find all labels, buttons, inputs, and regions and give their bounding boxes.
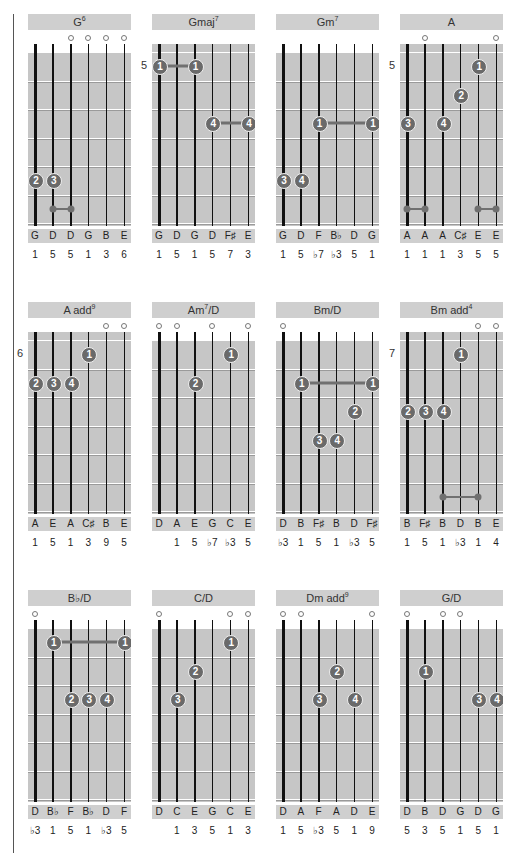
open-string-icon (103, 35, 109, 41)
note-name: F (316, 229, 322, 243)
finger-dot: 4 (64, 376, 80, 392)
interval-label: 5 (210, 824, 216, 838)
chord-name: Gmaj (188, 16, 214, 28)
fretboard: 11234 (28, 620, 131, 802)
guitar-string (372, 620, 373, 802)
note-names-bar: DCEGCE (152, 805, 255, 819)
interval-label: 1 (86, 248, 92, 262)
note-name: E (191, 805, 198, 819)
note-name: B (103, 229, 110, 243)
chord-superscript: 7 (204, 303, 208, 310)
interval-label: 1 (440, 536, 446, 550)
fret-shadow (152, 370, 255, 371)
interval-label: 1 (422, 248, 428, 262)
chord-title: Bm/D (276, 302, 379, 318)
interval-label: 1 (458, 824, 464, 838)
fret-shadow (400, 398, 503, 399)
interval-label: 1 (50, 824, 56, 838)
chord-name: B♭/D (68, 592, 91, 604)
interval-label: 5 (351, 248, 357, 262)
fret-shadow (28, 484, 131, 485)
interval-label: 6 (121, 248, 127, 262)
note-name: C♯ (82, 517, 94, 531)
guitar-string (282, 620, 285, 802)
finger-dot: 3 (170, 692, 186, 708)
guitar-string (460, 44, 462, 226)
fret-shadow (28, 686, 131, 687)
chord-title: Dm add9 (276, 590, 379, 606)
note-name: B (103, 517, 110, 531)
chord-diagram: Dm add9234DAFADE15♭3519 (276, 590, 379, 840)
open-string-markers (152, 321, 255, 331)
chord-title: A (400, 14, 503, 30)
interval-row: 15♭7♭351 (276, 248, 379, 262)
note-name: G (155, 229, 163, 243)
fret-shadow (276, 512, 379, 513)
finger-dot: 3 (46, 173, 62, 189)
finger-dot: 4 (205, 116, 221, 132)
note-names-bar: BF♯BDBE (400, 517, 503, 531)
fret-shadow (400, 772, 503, 773)
guitar-string (124, 44, 125, 226)
finger-dot: 1 (152, 59, 168, 75)
guitar-string (424, 620, 426, 802)
note-name: B♭ (47, 805, 59, 819)
guitar-string (336, 332, 338, 514)
fret-shadow (276, 686, 379, 687)
chord-superscript: 7 (334, 15, 338, 22)
fret-shadow (276, 800, 379, 801)
interval-label: 1 (174, 824, 180, 838)
fret-shadow (276, 370, 379, 371)
interval-row: 151♭314 (400, 536, 503, 550)
chord-diagram: Am7/D12DAEGCE15♭7♭35 (152, 302, 255, 552)
note-name: A (173, 517, 180, 531)
note-name: D (279, 517, 286, 531)
fretboard: 1134 (276, 44, 379, 226)
note-name: E (475, 229, 482, 243)
interval-label: 3 (458, 248, 464, 262)
fret-shadow (152, 398, 255, 399)
guitar-string (442, 332, 444, 514)
open-string-icon (32, 611, 38, 617)
finger-dot: 2 (400, 404, 416, 420)
finger-dot: 3 (471, 692, 487, 708)
fret-line (276, 628, 379, 629)
fret-shadow (28, 455, 131, 456)
note-names-bar: GDGDF♯E (152, 229, 255, 243)
small-note-dot-icon (404, 205, 411, 212)
finger-dot: 2 (453, 88, 469, 104)
open-string-icon (404, 611, 410, 617)
finger-dot: 2 (64, 692, 80, 708)
note-name: F♯ (225, 229, 236, 243)
interval-label: 5 (192, 536, 198, 550)
finger-dot: 1 (418, 664, 434, 680)
finger-dot: 2 (28, 173, 44, 189)
fret-line (400, 52, 503, 53)
interval-label: 1 (86, 824, 92, 838)
note-name: G (279, 229, 287, 243)
guitar-string (106, 44, 107, 226)
fret-shadow (276, 110, 379, 111)
chord-diagram: Gmaj751144GDGDF♯E151573 (152, 14, 255, 264)
guitar-string (442, 620, 444, 802)
fret-shadow (152, 512, 255, 513)
nut (152, 620, 255, 628)
fret-shadow (152, 800, 255, 801)
fret-line (28, 340, 131, 341)
chord-diagram: Gm71134GDFB♭DG15♭7♭351 (276, 14, 379, 264)
interval-label: 5 (121, 824, 127, 838)
chord-diagram: A add961234AEAC♯BE151395 (28, 302, 131, 552)
fret-shadow (400, 743, 503, 744)
finger-dot: 1 (471, 59, 487, 75)
fretboard: 11234 (276, 332, 379, 514)
interval-label: 3 (192, 824, 198, 838)
interval-label: 7 (227, 248, 233, 262)
note-name: D (49, 229, 56, 243)
chord-diagram: G623GDDGBE155136 (28, 14, 131, 264)
note-name: E (191, 517, 198, 531)
interval-label: 1 (440, 248, 446, 262)
fret-line (152, 52, 255, 53)
guitar-string (336, 620, 338, 802)
note-names-bar: AAAC♯EE (400, 229, 503, 243)
interval-row: 151395 (28, 536, 131, 550)
